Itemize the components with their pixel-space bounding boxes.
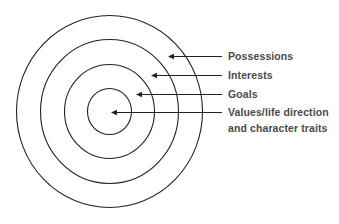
label-values-line1: Values/life direction: [228, 105, 329, 120]
arrow-head-icon: [136, 92, 142, 98]
arrows: [111, 54, 222, 116]
label-interests: Interests: [228, 68, 273, 83]
label-goals: Goals: [228, 87, 258, 102]
ring-third: [65, 65, 155, 159]
label-values-line2: and character traits: [228, 121, 327, 136]
ring-outer: [17, 16, 203, 208]
ring-innermost: [88, 89, 132, 135]
ring-second: [41, 40, 179, 184]
label-possessions: Possessions: [228, 49, 293, 64]
arrow-head-icon: [111, 110, 117, 116]
arrow-head-icon: [151, 73, 157, 79]
arrow-head-icon: [168, 54, 174, 60]
rings: [17, 16, 203, 208]
